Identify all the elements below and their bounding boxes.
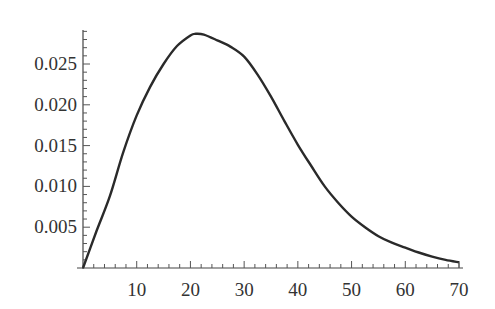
y-tick-label: 0.010: [34, 175, 77, 196]
x-axis: 10203040506070: [77, 261, 469, 300]
y-tick-label: 0.020: [34, 94, 77, 115]
density-chart: 0.0050.0100.0150.0200.025 10203040506070: [0, 0, 495, 309]
x-tick-label: 30: [235, 279, 254, 300]
x-tick-label: 10: [127, 279, 146, 300]
y-tick-label: 0.025: [34, 53, 77, 74]
y-tick-label: 0.015: [34, 135, 77, 156]
x-tick-label: 20: [181, 279, 200, 300]
density-curve: [83, 34, 459, 268]
x-tick-label: 60: [396, 279, 415, 300]
x-tick-label: 70: [450, 279, 469, 300]
plot-area: [83, 34, 459, 268]
y-tick-label: 0.005: [34, 216, 77, 237]
x-tick-label: 40: [288, 279, 307, 300]
y-axis: 0.0050.0100.0150.0200.025: [34, 30, 90, 269]
x-tick-label: 50: [342, 279, 361, 300]
